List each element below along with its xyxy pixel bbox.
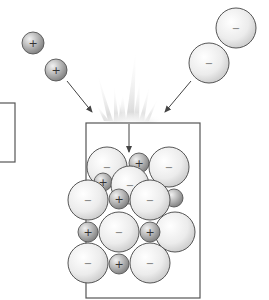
anion-ion: − <box>189 43 229 83</box>
incoming-cations: ++ <box>22 32 67 81</box>
incoming-anions: −− <box>189 8 256 83</box>
minus-sign-icon: − <box>103 162 111 173</box>
anion-ion: − <box>68 180 108 220</box>
cation-ion: + <box>109 254 129 274</box>
energy-burst-icon <box>96 46 161 127</box>
anion-ion: − <box>216 8 256 48</box>
anion-ion: − <box>68 243 108 283</box>
plus-sign-icon: + <box>145 226 154 239</box>
minus-sign-icon: − <box>205 58 213 69</box>
minus-sign-icon: − <box>84 195 92 206</box>
minus-sign-icon: − <box>146 195 154 206</box>
ionic-crystal-diagram: ++ −− −+−+−−+−+−+−+− <box>0 0 269 300</box>
minus-sign-icon: − <box>84 258 92 269</box>
plus-sign-icon: + <box>51 64 60 77</box>
minus-sign-icon: − <box>146 258 154 269</box>
minus-sign-icon: − <box>115 227 123 238</box>
cation-ion: + <box>45 59 67 81</box>
side-panel-box <box>0 103 15 162</box>
arrow-anions-in-icon <box>165 81 191 112</box>
plus-sign-icon: + <box>114 258 123 271</box>
anion-ion: − <box>130 243 170 283</box>
arrow-cations-in-icon <box>67 81 92 112</box>
cation-ion: + <box>78 222 98 242</box>
anion-ion: − <box>99 212 139 252</box>
minus-sign-icon: − <box>165 162 173 173</box>
cation-ion: + <box>109 189 129 209</box>
cation-ion: + <box>140 222 160 242</box>
cation-ion: + <box>22 32 44 54</box>
plus-sign-icon: + <box>28 37 37 50</box>
minus-sign-icon: − <box>232 23 240 34</box>
plus-sign-icon: + <box>114 193 123 206</box>
plus-sign-icon: + <box>83 226 92 239</box>
anion-ion: − <box>130 180 170 220</box>
